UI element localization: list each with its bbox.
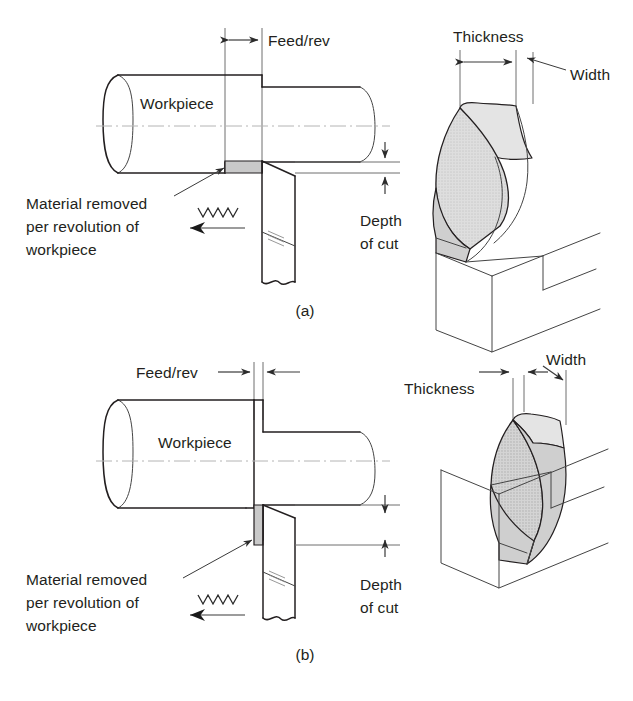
thickness-label-a: Thickness: [453, 28, 524, 45]
material-removed-line2-a: per revolution of: [26, 218, 139, 235]
feed-label-b: Feed/rev: [136, 364, 198, 381]
material-removed-region-b: [254, 505, 263, 545]
workpiece-label-b: Workpiece: [158, 434, 232, 451]
material-removed-line3-b: workpiece: [25, 617, 97, 634]
material-removed-line1-b: Material removed: [26, 571, 147, 588]
figure-root: Feed/rev: [0, 0, 633, 701]
turning-operation-figure: Feed/rev: [0, 0, 633, 701]
material-removed-line3-a: workpiece: [25, 241, 97, 258]
width-label-a: Width: [570, 66, 610, 83]
material-removed-line2-b: per revolution of: [26, 594, 139, 611]
workpiece-label-a: Workpiece: [140, 95, 214, 112]
material-removed-line1-a: Material removed: [26, 195, 147, 212]
depth-line2-b: of cut: [360, 599, 399, 616]
feed-label-a: Feed/rev: [268, 32, 330, 49]
depth-line1-a: Depth: [360, 212, 402, 229]
caption-b: (b): [295, 646, 314, 663]
thickness-label-b: Thickness: [404, 380, 475, 397]
material-removed-region-a: [225, 161, 262, 173]
depth-line1-b: Depth: [360, 576, 402, 593]
width-label-b: Width: [546, 351, 586, 368]
depth-line2-a: of cut: [360, 235, 399, 252]
caption-a: (a): [295, 302, 314, 319]
